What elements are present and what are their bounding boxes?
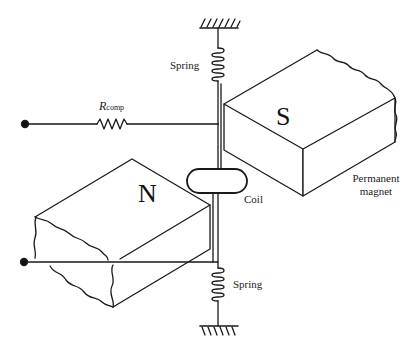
terminal-top[interactable] bbox=[22, 121, 29, 128]
resistor-icon bbox=[97, 119, 127, 129]
n-magnet-icon bbox=[34, 159, 210, 307]
top-ground-icon bbox=[200, 19, 240, 28]
bottom-spring-icon bbox=[212, 268, 224, 326]
spring-bottom-label: Spring bbox=[233, 278, 262, 290]
coil-label: Coil bbox=[244, 193, 263, 205]
top-wire bbox=[25, 119, 218, 129]
coil-icon bbox=[187, 169, 247, 193]
spring-top-label: Spring bbox=[170, 59, 199, 71]
resistor-label: Rcomp bbox=[99, 100, 124, 114]
magnet-label-line2: magnet bbox=[346, 185, 406, 197]
bottom-ground-icon bbox=[200, 326, 238, 335]
terminal-bottom[interactable] bbox=[21, 259, 28, 266]
north-pole-label: N bbox=[138, 181, 157, 207]
magnet-label-line1: Permanent bbox=[346, 172, 406, 184]
resistor-label-sub: comp bbox=[106, 103, 124, 112]
south-pole-label: S bbox=[276, 104, 290, 130]
top-spring-icon bbox=[212, 28, 224, 124]
